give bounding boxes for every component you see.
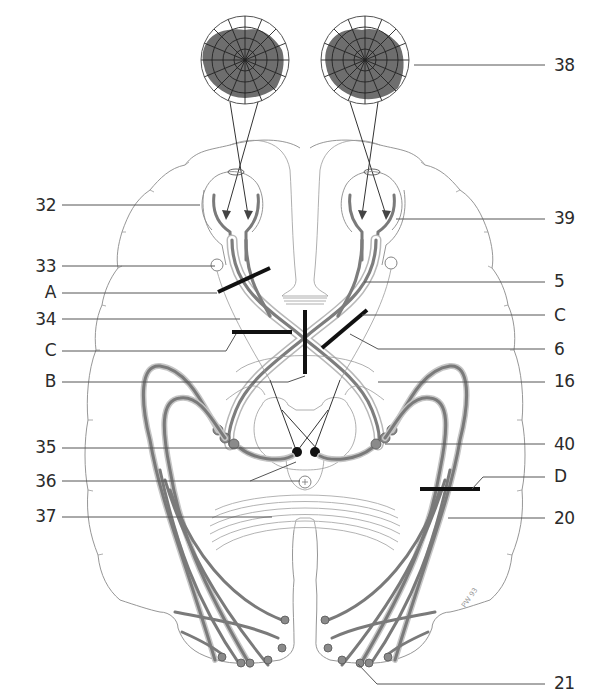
ciliary-ganglion-left — [211, 259, 223, 271]
label-39: 39 — [554, 210, 575, 227]
label-40: 40 — [554, 436, 575, 453]
artist-signature: PW 93 — [460, 586, 479, 609]
label-B: B — [12, 373, 56, 390]
label-21: 21 — [554, 675, 575, 692]
label-5: 5 — [554, 273, 564, 290]
label-C-left: C — [12, 342, 56, 359]
label-34: 34 — [12, 311, 56, 328]
label-38: 38 — [554, 57, 575, 74]
arrowhead-icon — [222, 210, 231, 220]
label-32: 32 — [12, 197, 56, 214]
projection-rays — [222, 102, 391, 220]
label-A: A — [12, 284, 56, 301]
label-37: 37 — [12, 508, 56, 525]
label-35: 35 — [12, 439, 56, 456]
label-20: 20 — [554, 510, 575, 527]
leader-lines-right — [350, 65, 545, 684]
arrowhead-icon — [244, 210, 253, 220]
label-16: 16 — [554, 373, 575, 390]
splenium-fibers — [210, 495, 400, 550]
midbrain — [226, 356, 384, 491]
label-D: D — [554, 468, 567, 485]
arrowhead-icon — [358, 210, 367, 220]
ciliary-ganglion-right — [385, 257, 397, 269]
label-33: 33 — [12, 258, 56, 275]
label-36: 36 — [12, 473, 56, 490]
right-visual-field — [321, 16, 409, 104]
label-C-right: C — [554, 307, 565, 324]
visual-pathway-diagram: PW 93 — [0, 0, 601, 700]
label-6: 6 — [554, 341, 564, 358]
left-visual-field — [201, 16, 289, 104]
